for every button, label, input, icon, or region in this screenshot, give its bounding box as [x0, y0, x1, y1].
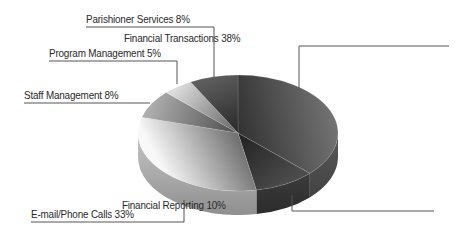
label-financial-transactions: Financial Transactions 38% [123, 32, 239, 45]
label-staff-management: Staff Management 8% [24, 89, 118, 102]
leader-line [49, 61, 177, 84]
label-financial-reporting: Financial Reporting 10% [122, 199, 226, 212]
pie-chart: Parishioner Services 8% Program Manageme… [0, 0, 473, 238]
label-parishioner-services: Parishioner Services 8% [86, 13, 190, 26]
label-email-phone-calls: E-mail/Phone Calls 33% [31, 208, 134, 221]
label-program-management: Program Management 5% [49, 47, 161, 60]
